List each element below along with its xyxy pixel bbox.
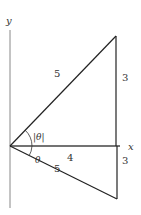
lower-hypotenuse-label: 5 [54, 163, 60, 174]
upper-vertical-label: 3 [122, 72, 128, 83]
upper-angle-arc [25, 130, 32, 146]
triangle-diagram: y x 5 3 |θ| 4 θ 5 3 [0, 0, 141, 215]
upper-hypotenuse [10, 36, 116, 146]
lower-hypotenuse [10, 146, 117, 199]
upper-hypotenuse-label: 5 [54, 68, 60, 79]
upper-angle-label: |θ| [33, 132, 44, 143]
base-label: 4 [67, 152, 73, 163]
y-axis-label: y [5, 15, 12, 26]
x-axis-label: x [128, 141, 134, 152]
lower-vertical-label: 3 [122, 155, 128, 166]
lower-angle-label: θ [35, 155, 41, 165]
lower-angle-arc [29, 146, 32, 156]
